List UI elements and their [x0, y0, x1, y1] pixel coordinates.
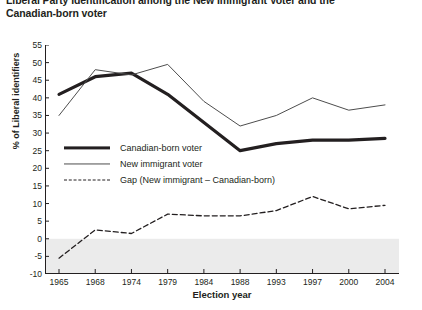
- legend-swatch-thin-line-icon: [64, 158, 110, 170]
- legend-swatch-dashed-line-icon: [64, 174, 110, 186]
- legend-label: Canadian-born voter: [120, 143, 202, 153]
- x-tick-label: 1988: [220, 277, 260, 287]
- y-tick-label: 20: [20, 163, 42, 173]
- y-tick-label: 35: [20, 110, 42, 120]
- legend-label: Gap (New immigrant – Canadian-born): [120, 175, 275, 185]
- x-axis-title: Election year: [45, 289, 399, 300]
- y-axis-tick-labels: -10-50510152025303540455055: [18, 0, 42, 310]
- legend-label: New immigrant voter: [120, 159, 203, 169]
- y-tick-label: -5: [20, 251, 42, 261]
- legend-item-canadian-born: Canadian-born voter: [64, 140, 294, 156]
- chart-title: Liberal Party Identification among the N…: [6, 0, 406, 20]
- x-tick-label: 1965: [39, 277, 79, 287]
- x-tick-label: 1993: [256, 277, 296, 287]
- x-tick-label: 1974: [111, 277, 151, 287]
- y-tick-label: 10: [20, 199, 42, 209]
- y-tick-label: 0: [20, 234, 42, 244]
- y-tick-label: 40: [20, 93, 42, 103]
- chart-title-line-1: Liberal Party Identification among the N…: [6, 0, 406, 7]
- x-tick-label: 1997: [293, 277, 333, 287]
- x-tick-label: 1968: [75, 277, 115, 287]
- x-tick-label: 1979: [148, 277, 188, 287]
- y-tick-label: 30: [20, 128, 42, 138]
- x-tick-label: 2004: [365, 277, 405, 287]
- y-tick-label: 45: [20, 75, 42, 85]
- x-tick-label: 1984: [184, 277, 224, 287]
- legend-item-new-immigrant: New immigrant voter: [64, 156, 294, 172]
- negative-shaded-band: [45, 239, 399, 274]
- chart-title-line-2: Canadian-born voter: [6, 7, 406, 20]
- x-tick-label: 2000: [329, 277, 369, 287]
- y-tick-label: 55: [20, 40, 42, 50]
- legend-swatch-thick-line-icon: [64, 142, 110, 154]
- y-tick-label: 25: [20, 146, 42, 156]
- series-line: [59, 64, 385, 126]
- chart-legend: Canadian-born voter New immigrant voter …: [64, 140, 294, 188]
- legend-item-gap: Gap (New immigrant – Canadian-born): [64, 172, 294, 188]
- y-tick-label: 15: [20, 181, 42, 191]
- y-tick-label: 50: [20, 58, 42, 68]
- y-tick-label: 5: [20, 216, 42, 226]
